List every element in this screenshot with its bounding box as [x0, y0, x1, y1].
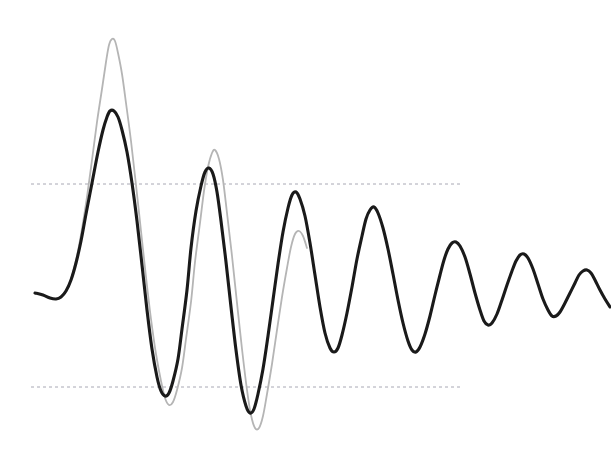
plot-background — [0, 0, 611, 460]
waveform-figure — [0, 0, 611, 460]
waveform-plot — [0, 0, 611, 460]
